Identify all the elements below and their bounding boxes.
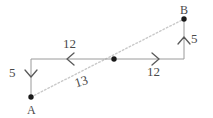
point-b-label: B [180, 4, 188, 16]
point-a-dot [28, 94, 33, 99]
vertical-left-label: 5 [9, 66, 16, 79]
segment-top-label: 12 [63, 37, 76, 50]
midpoint-dot [111, 56, 116, 61]
diagonal-resultant-line [31, 19, 184, 97]
vertical-right-label: 5 [191, 32, 198, 45]
point-a-label: A [27, 104, 36, 116]
segment-right-label: 12 [147, 65, 160, 78]
point-b-dot [181, 16, 186, 21]
diagram-canvas [0, 0, 213, 118]
vector-diagram: 12 12 5 5 13 A B [0, 0, 213, 118]
